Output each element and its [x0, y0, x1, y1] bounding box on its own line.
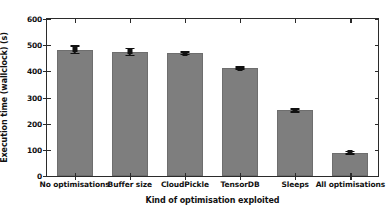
x-axis-tick-inner — [240, 173, 241, 177]
y-axis-tick-label: 300 — [27, 93, 42, 102]
bar-group — [323, 19, 378, 176]
x-axis-tick-top — [75, 19, 76, 23]
bar[interactable] — [112, 52, 148, 176]
bar[interactable] — [277, 110, 313, 176]
bar-group — [102, 19, 157, 176]
y-axis-tick-inner — [47, 19, 51, 20]
x-axis-tick-top — [185, 19, 186, 23]
y-axis-tick-right — [375, 19, 379, 20]
x-axis-tick-label: All optimisations — [316, 180, 386, 189]
y-axis-tick-right — [375, 176, 379, 177]
y-axis-tick-label: 500 — [27, 41, 42, 50]
data-point-marker — [293, 108, 298, 113]
x-axis-tick-inner — [185, 173, 186, 177]
y-axis-tick-label: 100 — [27, 145, 42, 154]
bar[interactable] — [222, 68, 258, 176]
bar-group — [157, 19, 212, 176]
bar[interactable] — [167, 53, 203, 176]
bar-chart-figure: Execution time (wallclock) (s) 010020030… — [0, 0, 392, 218]
bar-group — [47, 19, 102, 176]
bar-group — [213, 19, 268, 176]
error-bar-cap-lower — [125, 55, 134, 57]
data-point-marker — [348, 150, 353, 155]
x-axis-tick-label: Sleeps — [282, 180, 309, 189]
y-axis-tick-inner — [47, 150, 51, 151]
y-axis-tick-right — [375, 71, 379, 72]
x-axis-tick-label: No optimisations — [40, 180, 110, 189]
data-point-marker — [72, 47, 77, 52]
y-axis-tick-inner — [47, 71, 51, 72]
x-axis-tick-inner — [75, 173, 76, 177]
data-point-marker — [127, 49, 132, 54]
x-axis-tick-top — [130, 19, 131, 23]
y-axis-tick-inner — [47, 98, 51, 99]
x-axis-tick-inner — [130, 173, 131, 177]
y-axis-tick-label: 200 — [27, 119, 42, 128]
y-axis-tick-inner — [47, 45, 51, 46]
x-axis-tick-label: TensorDB — [221, 180, 260, 189]
x-axis-tick-inner — [295, 173, 296, 177]
y-axis-tick-right — [375, 98, 379, 99]
y-axis-tick-inner — [47, 176, 51, 177]
plot-frame: 0100200300400500600No optimisationsBuffe… — [46, 18, 379, 177]
y-axis-tick-right — [375, 45, 379, 46]
y-axis-tick-label: 400 — [27, 67, 42, 76]
error-bar-cap-lower — [70, 53, 79, 55]
x-axis-title: Kind of optimisation exploited — [46, 196, 379, 205]
bar[interactable] — [57, 50, 93, 176]
plot-area — [47, 19, 378, 176]
x-axis-tick-label: Buffer size — [108, 180, 152, 189]
bar-group — [268, 19, 323, 176]
x-axis-tick-label: CloudPickle — [161, 180, 209, 189]
x-axis-tick-inner — [350, 173, 351, 177]
y-axis-tick-right — [375, 150, 379, 151]
y-axis-title: Execution time (wallclock) (s) — [0, 18, 14, 177]
x-axis-tick-top — [295, 19, 296, 23]
x-axis-tick-top — [350, 19, 351, 23]
data-point-marker — [182, 51, 187, 56]
x-axis-tick-top — [240, 19, 241, 23]
y-axis-tick-inner — [47, 124, 51, 125]
data-point-marker — [238, 66, 243, 71]
y-axis-tick-right — [375, 124, 379, 125]
y-axis-tick-label: 600 — [27, 15, 42, 24]
